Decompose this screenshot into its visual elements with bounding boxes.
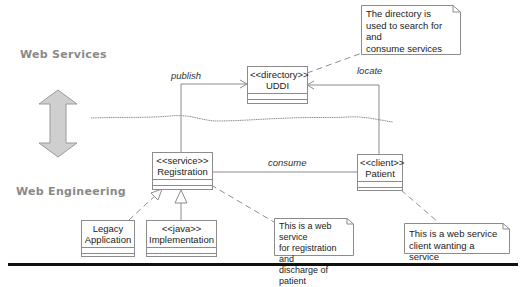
patient-name: Patient xyxy=(360,168,400,179)
registration-name: Registration xyxy=(155,166,210,177)
directory-note-anchor xyxy=(307,53,362,73)
implementation-generalization xyxy=(175,190,187,220)
registration-stereotype: <<service>> xyxy=(155,155,210,166)
publish-label: publish xyxy=(171,70,201,81)
patient-class[interactable]: <<client>> Patient xyxy=(357,154,403,191)
registration-note-text: This is a web service for registration a… xyxy=(279,221,349,287)
consume-label: consume xyxy=(268,157,307,168)
implementation-operations-compartment xyxy=(147,253,216,257)
legacy-operations-compartment xyxy=(82,253,134,257)
directory-note-text: The directory is used to search for and … xyxy=(366,8,456,54)
layer-boundary-wave xyxy=(91,116,393,122)
implementation-name: Implementation xyxy=(149,234,214,245)
directory-note[interactable]: The directory is used to search for and … xyxy=(361,5,461,55)
double-arrow-icon xyxy=(39,90,77,157)
legacy-realization xyxy=(129,189,162,220)
locate-label: locate xyxy=(357,65,382,76)
implementation-stereotype: <<java>> xyxy=(149,223,214,234)
uddi-name: UDDI xyxy=(250,80,305,91)
patient-operations-compartment xyxy=(358,187,402,191)
uddi-class[interactable]: <<directory>> UDDI xyxy=(247,66,308,104)
uddi-operations-compartment xyxy=(248,99,307,103)
registration-note[interactable]: This is a web service for registration a… xyxy=(274,218,354,256)
web-engineering-layer-label: Web Engineering xyxy=(16,185,126,198)
registration-operations-compartment xyxy=(153,185,212,189)
client-note[interactable]: This is a web service client wanting a s… xyxy=(404,223,510,254)
uddi-stereotype: <<directory>> xyxy=(250,69,305,80)
implementation-class[interactable]: <<java>> Implementation xyxy=(146,220,217,257)
bottom-separator xyxy=(8,263,518,266)
registration-note-anchor xyxy=(211,185,274,222)
registration-class[interactable]: <<service>> Registration xyxy=(152,152,213,190)
legacy-application-class[interactable]: Legacy Application xyxy=(81,220,135,257)
patient-stereotype: <<client>> xyxy=(360,157,400,168)
client-note-anchor xyxy=(401,190,438,222)
legacy-name-line1: Legacy xyxy=(84,223,132,234)
web-services-layer-label: Web Services xyxy=(20,48,107,61)
publish-association xyxy=(181,80,247,152)
client-note-text: This is a web service client wanting a s… xyxy=(409,228,505,263)
legacy-name-line2: Application xyxy=(84,234,132,245)
